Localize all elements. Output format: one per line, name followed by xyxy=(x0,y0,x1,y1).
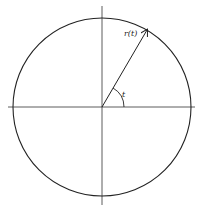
vector-label: r(t) xyxy=(124,29,137,38)
circle-diagram: r(t) t xyxy=(0,0,201,213)
angle-label: t xyxy=(122,90,126,99)
diagram: r(t) t xyxy=(0,0,201,213)
